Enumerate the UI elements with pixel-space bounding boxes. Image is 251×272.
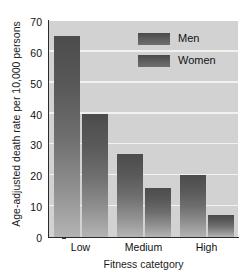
legend-swatch-women <box>138 55 170 67</box>
x-axis-tick-label: High <box>196 241 218 253</box>
y-axis-tick-label: 70 <box>18 17 42 28</box>
y-axis-tick-label: 40 <box>18 109 42 120</box>
x-axis-tick-label: Low <box>71 241 90 253</box>
legend-label-women: Women <box>178 55 216 66</box>
bar-chart: Age-adjusted death rate per 10,000 perso… <box>0 0 251 272</box>
x-axis-line <box>48 237 239 238</box>
bar-men-high <box>180 175 206 237</box>
bar-women-medium <box>145 188 171 237</box>
bar-women-high <box>208 215 234 237</box>
legend-item-women: Women <box>138 53 216 68</box>
legend-label-men: Men <box>178 33 199 44</box>
bar-women-low <box>82 114 108 237</box>
y-axis-tick-label: 60 <box>18 48 42 59</box>
y-axis-tick-label: 10 <box>18 202 42 213</box>
y-axis-tick-label: 0 <box>18 233 42 244</box>
y-axis-tick-label: 30 <box>18 140 42 151</box>
x-axis-tick-label: Medium <box>125 241 162 253</box>
bar-men-medium <box>117 154 143 237</box>
legend: Men Women <box>138 31 216 75</box>
legend-item-men: Men <box>138 31 216 46</box>
y-axis-tick-label: 20 <box>18 171 42 182</box>
x-axis-title: Fitness catetgory <box>49 258 238 270</box>
x-axis-tick-labels: LowMediumHigh <box>49 241 238 257</box>
bar-men-low <box>54 36 80 237</box>
y-axis-tick-label: 50 <box>18 78 42 89</box>
y-axis-tick-mark <box>62 238 66 239</box>
legend-swatch-men <box>138 33 170 45</box>
y-axis-tick-labels: 010203040506070 <box>18 22 42 236</box>
